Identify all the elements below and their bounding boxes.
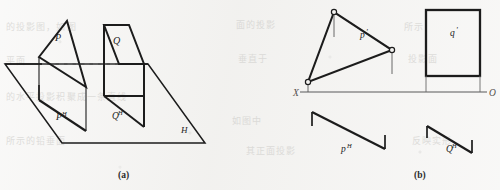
horizontal-projection-p-label: p H <box>340 142 352 154</box>
plane-q-upper <box>104 25 144 64</box>
horizontal-q-label-sup: H <box>451 142 457 149</box>
frontal-projection-p-label: p ' <box>359 28 368 40</box>
figure-page: 的投影图，如图 面的投影 所示 平面 垂直于 投影面 的水平投影积聚成一条直线 … <box>0 0 500 190</box>
frontal-projection-q-label: q ' <box>450 26 458 38</box>
plane-q-trace-label-sup: H <box>117 109 123 116</box>
frontal-projection-q-rect <box>426 10 480 76</box>
vertex-marker-apex <box>331 9 336 14</box>
plane-p-triangle <box>39 21 86 87</box>
frontal-p-label-base: p <box>359 30 365 40</box>
frontal-p-label-prime: ' <box>366 28 368 37</box>
plane-q-trace-base <box>104 96 144 127</box>
caption-b: (b) <box>414 170 426 180</box>
plane-q-trace-label: Q H <box>112 109 123 121</box>
vertex-marker-right <box>389 47 394 52</box>
vertex-marker-left <box>305 79 310 84</box>
horizontal-p-label-sup: H <box>346 142 352 149</box>
horizontal-projection-q-label: Q H <box>446 142 457 154</box>
pictorial-diagram: P Q P H Q H H X O p ' q <box>0 0 500 190</box>
plane-p-trace-label: P H <box>55 110 67 122</box>
plane-h-label: H <box>180 125 188 135</box>
plane-p-trace-label-sup: H <box>61 110 67 117</box>
frontal-projection-p-triangle <box>308 12 392 82</box>
horizontal-p-label-base: p <box>340 144 346 154</box>
caption-a: (a) <box>118 170 129 180</box>
axis-label-o: O <box>489 88 496 98</box>
frontal-q-label-base: q <box>450 28 455 38</box>
plane-p-trace-label-base: P <box>55 112 62 122</box>
frontal-q-label-prime: ' <box>456 26 458 35</box>
axis-label-x: X <box>292 88 300 98</box>
plane-q-label: Q <box>113 35 121 46</box>
plane-p-label: P <box>54 32 61 43</box>
